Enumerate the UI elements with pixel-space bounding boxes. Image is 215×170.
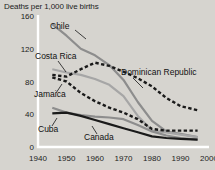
series-line-canada [52,113,197,140]
series-label-costa-rica: Costa Rica [35,51,77,61]
chart-container: Deaths per 1,000 live births 04080120160… [0,0,215,170]
x-tick-label: 1970 [115,154,133,163]
series-label-cuba: Cuba [38,124,59,134]
series-label-canada: Canada [84,132,114,142]
series-label-jamaica: Jamaica [34,89,66,99]
y-tick-label: 40 [25,110,34,119]
series-line-costa-rica [52,69,197,137]
series-label-dominican-republic: Dominican Republic [121,67,197,77]
annotation-leader-line [75,30,86,39]
x-tick-label: 2000 [200,154,215,163]
x-tick-label: 1990 [172,154,190,163]
y-tick-label: 0 [30,143,35,152]
x-tick-label: 1960 [86,154,104,163]
chart-plot-area: 040801201601940195019601970198019902000C… [0,0,215,170]
y-tick-label: 120 [21,45,35,54]
x-tick-label: 1950 [58,154,76,163]
y-tick-label: 160 [21,12,35,21]
x-tick-label: 1980 [143,154,161,163]
series-label-chile: Chile [50,21,70,31]
x-tick-label: 1940 [29,154,47,163]
y-tick-label: 80 [25,78,34,87]
series-line-jamaica [52,77,197,130]
